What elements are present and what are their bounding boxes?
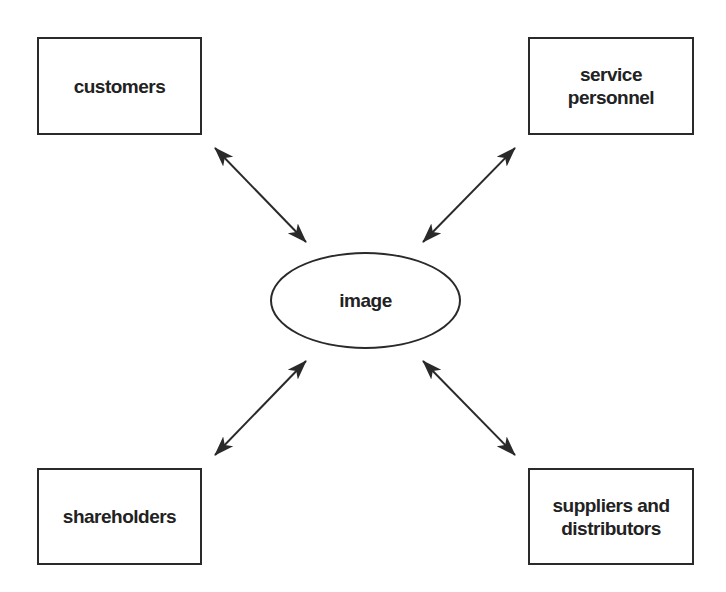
- node-label: shareholders: [63, 505, 176, 528]
- center-label: image: [339, 289, 391, 312]
- arrow-shareholders-image: [215, 361, 306, 455]
- node-shareholders: shareholders: [37, 468, 202, 565]
- node-label: suppliers and distributors: [552, 494, 669, 540]
- node-service-personnel: service personnel: [528, 37, 694, 135]
- node-label: service personnel: [568, 63, 654, 109]
- center-node-image: image: [270, 252, 461, 349]
- node-label: customers: [74, 75, 166, 98]
- arrow-customers-image: [215, 148, 306, 242]
- arrow-service-personnel-image: [423, 148, 515, 242]
- node-suppliers-distributors: suppliers and distributors: [528, 468, 694, 565]
- node-customers: customers: [37, 37, 202, 135]
- arrow-suppliers-image: [423, 361, 515, 455]
- stakeholder-image-diagram: customers service personnel image shareh…: [0, 0, 726, 592]
